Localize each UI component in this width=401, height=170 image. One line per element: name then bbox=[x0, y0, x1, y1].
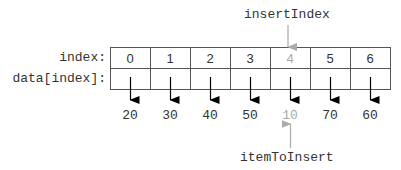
index-cell-3: 3 bbox=[230, 51, 270, 66]
value-arrows bbox=[131, 77, 371, 100]
index-cell-4-highlighted: 4 bbox=[270, 51, 310, 66]
index-cell-5: 5 bbox=[310, 51, 350, 66]
value-0: 20 bbox=[110, 108, 150, 123]
value-3: 50 bbox=[230, 108, 270, 123]
data-row-label: data[index]: bbox=[0, 71, 106, 86]
insert-index-label: insertIndex bbox=[244, 7, 330, 22]
index-cell-1: 1 bbox=[150, 51, 190, 66]
index-row-label: index: bbox=[0, 50, 106, 65]
index-cell-0: 0 bbox=[110, 51, 150, 66]
value-2: 40 bbox=[190, 108, 230, 123]
value-1: 30 bbox=[150, 108, 190, 123]
value-6: 60 bbox=[350, 108, 390, 123]
index-cell-2: 2 bbox=[190, 51, 230, 66]
item-to-insert-label: itemToInsert bbox=[240, 150, 334, 165]
index-cell-6: 6 bbox=[350, 51, 390, 66]
value-4-highlighted: 10 bbox=[270, 108, 310, 123]
value-5: 70 bbox=[310, 108, 350, 123]
